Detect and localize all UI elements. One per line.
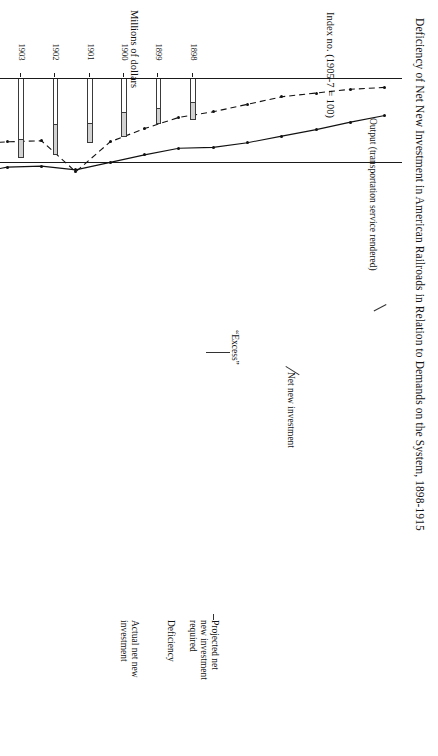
label-projected-line1: Projected net [209, 620, 220, 670]
line-data-point [349, 121, 352, 124]
series-leader-output [374, 304, 387, 311]
year-label: 1898 [189, 34, 199, 70]
leader-excess [206, 352, 230, 353]
bar-group [18, 78, 24, 696]
bar-group [53, 78, 59, 696]
line-data-point [349, 88, 352, 91]
bar-chart-panel: 200400600800100012001400 Millions of dol… [6, 0, 216, 756]
line-data-point [315, 128, 318, 131]
label-projected-line3: required [187, 620, 198, 652]
bar-segment-actual [121, 78, 127, 113]
bar-x-axis [0, 78, 210, 79]
bar-segment-actual [190, 78, 196, 103]
bar-y-axis-caption: Millions of dollars [129, 10, 140, 72]
bar-x-tick [20, 73, 21, 77]
rotated-figure-wrapper: Deficiency of Net New Investment in Amer… [0, 0, 438, 756]
bar-segment-actual [18, 78, 24, 140]
bar-x-tick [55, 73, 56, 77]
year-label: 1901 [86, 34, 96, 70]
label-projected-line2: new investment [198, 620, 209, 680]
bar-x-tick [123, 73, 124, 77]
bar-x-tick [89, 73, 90, 77]
bar-segment-deficiency [121, 112, 127, 137]
bar-segment-deficiency [18, 139, 24, 158]
bar-x-tick [192, 73, 193, 77]
bar-group [121, 78, 127, 696]
bar-group [156, 78, 162, 696]
year-label: 1899 [155, 34, 165, 70]
page-title: Deficiency of Net New Investment in Amer… [414, 18, 426, 531]
year-label: 1902 [52, 34, 62, 70]
bar-segment-deficiency [87, 123, 93, 143]
bar-group [190, 78, 196, 696]
figure: Deficiency of Net New Investment in Amer… [0, 0, 438, 756]
bar-group [87, 78, 93, 696]
bar-segment-actual [53, 78, 59, 125]
figure-page: Deficiency of Net New Investment in Amer… [0, 0, 438, 756]
bar-x-tick [158, 73, 159, 77]
series-label-investment: Net new investment [285, 372, 296, 448]
year-label: 1900 [120, 34, 130, 70]
bar-plot-area [0, 78, 210, 230]
series-label-output: Output (transportation service rendered) [367, 118, 378, 271]
bar-segment-deficiency [53, 124, 59, 154]
bar-segment-deficiency [156, 108, 162, 124]
line-data-point [315, 92, 318, 95]
line-data-point [246, 103, 249, 106]
bar-segment-actual [156, 78, 162, 109]
label-actual-line1: Actual net new [129, 620, 140, 678]
label-deficiency: Deficiency [165, 620, 176, 662]
label-excess: “Excess” [229, 330, 240, 365]
line-y-axis-caption: Index no. (1905-7 = 100) [325, 12, 336, 72]
year-label: 1903 [17, 34, 27, 70]
line-chart-panel: 20406080100120140160 Index no. (1905-7 =… [218, 0, 408, 756]
label-actual-line2: investment [118, 620, 129, 662]
leader-projected [213, 614, 214, 620]
bar-segment-deficiency [190, 102, 196, 120]
bar-segment-actual [87, 78, 93, 124]
